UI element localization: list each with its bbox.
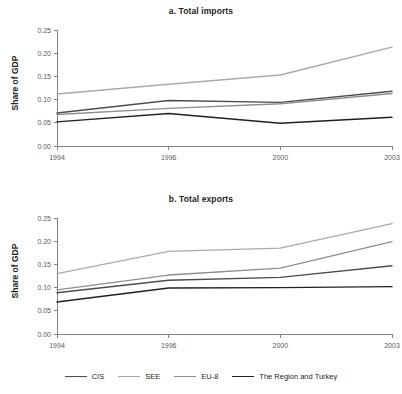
- y-tick-label: 0.20: [37, 50, 51, 57]
- legend-item-the-region-and-turkey[interactable]: The Region and Turkey: [232, 372, 337, 381]
- series-line-the-region-and-turkey: [57, 287, 392, 302]
- y-tick-label: 0.25: [37, 27, 51, 34]
- x-tick-label: 2003: [384, 342, 400, 349]
- legend-item-cis[interactable]: CIS: [65, 372, 105, 381]
- y-tick-label: 0.20: [37, 238, 51, 245]
- figure-container: a. Total imports Share of GDP 0.000.050.…: [0, 0, 402, 394]
- legend-swatch-icon: [118, 376, 140, 377]
- series-line-eu-8: [57, 242, 392, 290]
- y-tick-label: 0.25: [37, 215, 51, 222]
- series-line-see: [57, 224, 392, 274]
- series-line-cis: [57, 266, 392, 293]
- x-tick-label: 2000: [273, 342, 289, 349]
- series-line-cis: [57, 91, 392, 113]
- legend-swatch-icon: [174, 376, 196, 377]
- y-tick-label: 0.15: [37, 261, 51, 268]
- y-tick-label: 0.10: [37, 96, 51, 103]
- legend-swatch-icon: [65, 376, 87, 377]
- chart-legend: CISSEEEU-8The Region and Turkey: [0, 372, 402, 381]
- y-tick-label: 0.05: [37, 119, 51, 126]
- legend-label: EU-8: [201, 372, 218, 381]
- legend-label: CIS: [92, 372, 105, 381]
- plot-area-total-exports: 0.000.050.100.150.200.251994199620002003: [0, 188, 402, 368]
- legend-item-see[interactable]: SEE: [118, 372, 160, 381]
- x-tick-label: 1994: [49, 342, 65, 349]
- y-tick-label: 0.10: [37, 284, 51, 291]
- x-tick-label: 1996: [161, 154, 177, 161]
- x-tick-label: 1994: [49, 154, 65, 161]
- y-tick-label: 0.15: [37, 73, 51, 80]
- x-tick-label: 2000: [273, 154, 289, 161]
- x-tick-label: 2003: [384, 154, 400, 161]
- x-tick-label: 1996: [161, 342, 177, 349]
- y-tick-label: 0.00: [37, 143, 51, 150]
- legend-label: SEE: [145, 372, 160, 381]
- chart-panel-total-exports: b. Total exports Share of GDP 0.000.050.…: [0, 188, 402, 368]
- legend-swatch-icon: [232, 376, 254, 377]
- y-tick-label: 0.05: [37, 307, 51, 314]
- chart-panel-total-imports: a. Total imports Share of GDP 0.000.050.…: [0, 0, 402, 180]
- legend-item-eu-8[interactable]: EU-8: [174, 372, 218, 381]
- legend-label: The Region and Turkey: [259, 372, 337, 381]
- series-line-the-region-and-turkey: [57, 114, 392, 124]
- y-tick-label: 0.00: [37, 331, 51, 338]
- series-line-see: [57, 47, 392, 94]
- plot-area-total-imports: 0.000.050.100.150.200.251994199620002003: [0, 0, 402, 180]
